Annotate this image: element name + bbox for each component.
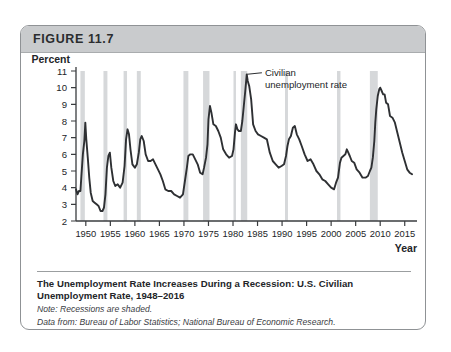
y-tick-label: 3 bbox=[62, 199, 67, 210]
y-tick-label: 11 bbox=[57, 66, 67, 77]
y-tick-label: 9 bbox=[62, 99, 67, 110]
y-tick-label: 5 bbox=[62, 166, 67, 177]
y-axis-ticks bbox=[71, 71, 76, 221]
caption-divider bbox=[37, 271, 411, 272]
x-axis-ticks bbox=[86, 221, 405, 226]
x-tick-label: 2010 bbox=[370, 228, 391, 239]
x-tick-label: 1960 bbox=[124, 228, 145, 239]
caption-note: Note: Recessions are shaded. bbox=[37, 304, 411, 315]
x-tick-label: 1995 bbox=[296, 228, 317, 239]
y-tick-label: 8 bbox=[62, 116, 67, 127]
x-tick-label: 1985 bbox=[247, 228, 268, 239]
x-tick-label: 1955 bbox=[100, 228, 121, 239]
x-tick-label: 1970 bbox=[174, 228, 195, 239]
series-annotation: Civilian unemployment rate bbox=[247, 67, 347, 90]
x-tick-label: 1980 bbox=[223, 228, 244, 239]
recession-band bbox=[241, 71, 247, 221]
caption-title: The Unemployment Rate Increases During a… bbox=[37, 278, 411, 303]
annotation-leader-line bbox=[247, 73, 262, 75]
recession-band bbox=[337, 71, 340, 221]
figure-caption: The Unemployment Rate Increases During a… bbox=[21, 271, 425, 329]
chart-plot-area: 234567891011 195019551960196519701975198… bbox=[21, 53, 425, 265]
y-tick-label: 10 bbox=[56, 82, 67, 93]
figure-number-label: FIGURE 11.7 bbox=[21, 32, 114, 46]
recession-band bbox=[183, 71, 188, 221]
x-axis-tick-labels: 1950195519601965197019751980198519901995… bbox=[75, 228, 415, 239]
x-tick-label: 1965 bbox=[149, 228, 170, 239]
figure-header: FIGURE 11.7 bbox=[21, 26, 425, 53]
x-tick-label: 1975 bbox=[198, 228, 219, 239]
y-tick-label: 4 bbox=[62, 182, 68, 193]
caption-source: Data from: Bureau of Labor Statistics; N… bbox=[37, 317, 411, 328]
x-tick-label: 2000 bbox=[321, 228, 342, 239]
y-axis-title: Percent bbox=[31, 53, 70, 65]
x-tick-label: 2005 bbox=[345, 228, 366, 239]
x-tick-label: 1990 bbox=[272, 228, 293, 239]
y-tick-label: 2 bbox=[62, 216, 67, 227]
annotation-label-line1: Civilian bbox=[265, 67, 296, 78]
x-axis-title: Year bbox=[395, 242, 417, 254]
unemployment-line-chart: 234567891011 195019551960196519701975198… bbox=[21, 53, 426, 265]
y-tick-label: 7 bbox=[62, 132, 67, 143]
y-axis-tick-labels: 234567891011 bbox=[56, 66, 67, 227]
figure-card: FIGURE 11.7 234567891011 195019551960196… bbox=[20, 25, 426, 330]
x-tick-label: 1950 bbox=[75, 228, 96, 239]
x-tick-label: 2015 bbox=[394, 228, 415, 239]
annotation-label-line2: unemployment rate bbox=[265, 79, 347, 90]
y-tick-label: 6 bbox=[62, 149, 67, 160]
recession-band bbox=[203, 71, 209, 221]
